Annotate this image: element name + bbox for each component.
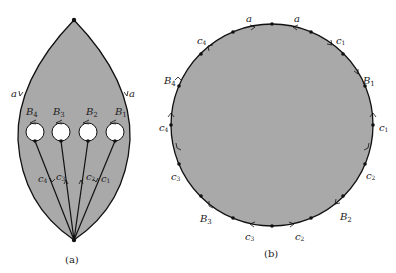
label-c3-left: c3 bbox=[171, 171, 181, 182]
label-b3: B3 bbox=[199, 213, 212, 226]
boundary-circle-b1 bbox=[106, 123, 124, 141]
caption-a: (a) bbox=[65, 254, 79, 265]
diagram-canvas: a a B4 B3 B2 B1 c4 c3 c2 c1 (a) bbox=[0, 0, 396, 273]
label-c2-bottom: c2 bbox=[295, 231, 305, 242]
label-a-top-right: a bbox=[294, 13, 300, 24]
label-c1-top: c1 bbox=[336, 35, 345, 46]
label-a-right: a bbox=[129, 88, 135, 99]
boundary-circle-b2 bbox=[79, 123, 97, 141]
label-a-top-left: a bbox=[246, 13, 252, 24]
label-c1-right: c1 bbox=[379, 122, 388, 133]
boundary-circle-b3 bbox=[52, 123, 70, 141]
label-c2-right: c2 bbox=[366, 170, 376, 181]
label-b4: B4 bbox=[163, 75, 176, 88]
boundary-circle-b4 bbox=[26, 123, 44, 141]
caption-b: (b) bbox=[264, 248, 278, 259]
label-c3-bottom: c3 bbox=[245, 231, 255, 242]
label-c4-top: c4 bbox=[197, 35, 207, 46]
figure-a: a a B4 B3 B2 B1 c4 c3 c2 c1 (a) bbox=[11, 18, 135, 265]
label-a-left: a bbox=[11, 88, 17, 99]
label-b2: B2 bbox=[339, 211, 352, 224]
label-c4-left: c4 bbox=[159, 122, 169, 133]
figure-b: a a c1 B1 c1 c2 B2 c2 c3 B3 c3 c4 B4 c4 … bbox=[159, 13, 388, 259]
